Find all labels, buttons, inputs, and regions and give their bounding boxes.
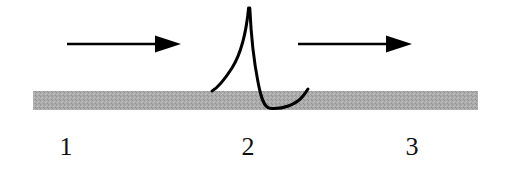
- surface-band-rect: [33, 91, 478, 110]
- figure-container: 1 2 3: [0, 0, 514, 180]
- arrow-left-head: [155, 36, 181, 53]
- stage-label-1: 1: [46, 134, 86, 160]
- arrow-left: [67, 36, 181, 53]
- arrow-right-head: [386, 36, 412, 53]
- pulse-left-flank: [212, 8, 249, 91]
- surface-band: [33, 91, 478, 110]
- stage-label-3: 3: [392, 134, 432, 160]
- stage-label-2: 2: [228, 134, 268, 160]
- arrow-right: [298, 36, 412, 53]
